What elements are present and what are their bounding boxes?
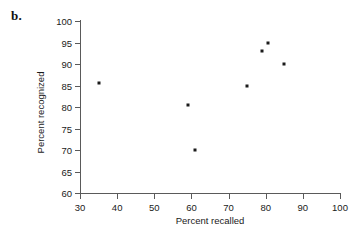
scatterplot-figure: b. Percent recognized Percent recalled 6…	[0, 0, 363, 236]
y-tick	[75, 43, 80, 44]
y-tick-label: 70	[61, 145, 72, 156]
plot-area: 6065707580859095100 30405060708090100	[80, 21, 340, 193]
x-tick	[154, 194, 155, 199]
x-tick-label: 70	[223, 202, 234, 213]
y-tick-label: 80	[61, 102, 72, 113]
x-tick	[117, 194, 118, 199]
data-point	[246, 84, 249, 87]
y-axis-title: Percent recognized	[35, 43, 46, 183]
x-axis-line	[80, 193, 341, 194]
y-tick-label: 90	[61, 59, 72, 70]
x-axis-title: Percent recalled	[80, 215, 340, 226]
panel-label: b.	[11, 9, 22, 22]
x-tick	[80, 194, 81, 199]
y-tick	[75, 129, 80, 130]
data-point	[186, 103, 189, 106]
y-tick	[75, 86, 80, 87]
y-tick-label: 75	[61, 123, 72, 134]
x-tick-label: 80	[260, 202, 271, 213]
x-tick	[229, 194, 230, 199]
x-tick	[303, 194, 304, 199]
x-tick	[340, 194, 341, 199]
x-tick-label: 60	[186, 202, 197, 213]
data-point	[97, 82, 100, 85]
y-tick-label: 85	[61, 80, 72, 91]
data-point	[261, 50, 264, 53]
y-tick-label: 100	[56, 16, 72, 27]
y-tick-label: 60	[61, 188, 72, 199]
y-tick	[75, 64, 80, 65]
x-tick-label: 90	[298, 202, 309, 213]
x-tick-label: 50	[149, 202, 160, 213]
y-tick-label: 95	[61, 37, 72, 48]
y-tick	[75, 107, 80, 108]
y-tick	[75, 21, 80, 22]
x-tick-label: 30	[75, 202, 86, 213]
x-tick-label: 100	[332, 202, 348, 213]
y-tick-label: 65	[61, 166, 72, 177]
y-tick	[75, 150, 80, 151]
x-tick-label: 40	[112, 202, 123, 213]
data-point	[283, 63, 286, 66]
data-point	[266, 41, 269, 44]
data-point	[194, 149, 197, 152]
y-axis-line	[80, 20, 81, 194]
x-tick	[266, 194, 267, 199]
x-tick	[191, 194, 192, 199]
y-tick	[75, 172, 80, 173]
